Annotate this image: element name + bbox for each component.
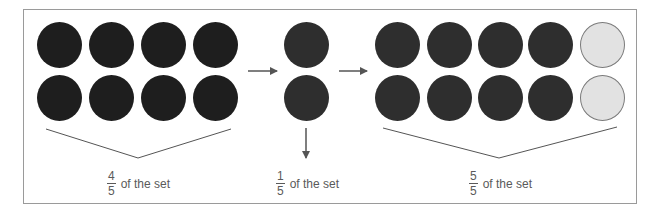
label-whole-set: 4 5 of the set xyxy=(107,170,170,197)
label-text: of the set xyxy=(483,177,532,191)
bracket-left xyxy=(46,129,231,158)
bracket-right xyxy=(383,127,617,158)
fraction: 4 5 xyxy=(107,170,116,197)
fraction: 1 5 xyxy=(276,170,285,197)
label-combined-set: 5 5 of the set xyxy=(469,170,532,197)
label-text: of the set xyxy=(121,177,170,191)
fraction: 5 5 xyxy=(469,170,478,197)
label-unit-fraction: 1 5 of the set xyxy=(276,170,339,197)
label-text: of the set xyxy=(290,177,339,191)
